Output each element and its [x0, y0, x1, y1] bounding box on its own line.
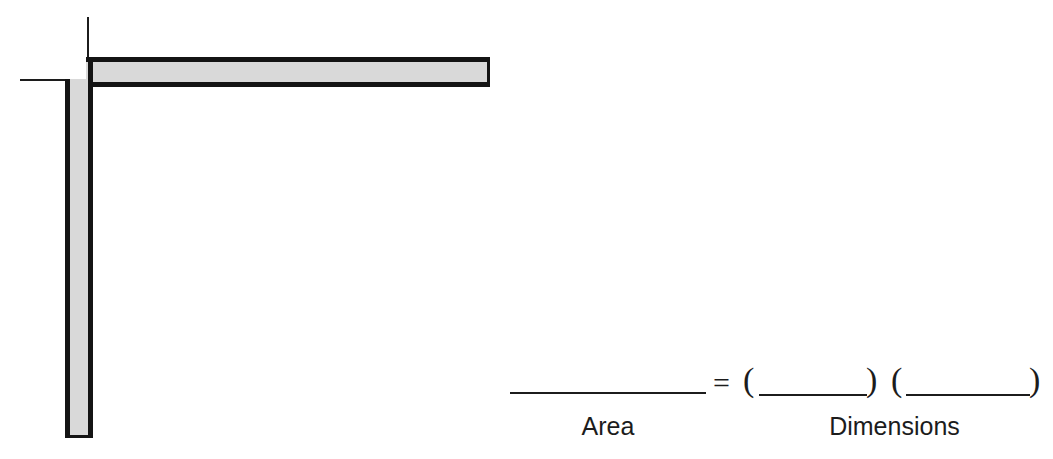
equals-sign: =	[713, 368, 730, 398]
area-answer-blank[interactable]	[510, 392, 706, 394]
left-parenthesis-2: (	[891, 363, 902, 397]
right-parenthesis-1: )	[866, 363, 877, 397]
l-shape-figure	[0, 0, 520, 459]
area-equation: = ( ) ( ) Area Dimensions	[500, 360, 1053, 459]
dimension-answer-blank-2[interactable]	[906, 394, 1030, 396]
left-parenthesis-1: (	[743, 363, 754, 397]
vertical-bar-end-cap	[65, 435, 93, 438]
equation-row: = ( ) ( )	[500, 360, 1053, 406]
area-label: Area	[510, 412, 706, 441]
horizontal-bar	[86, 57, 490, 87]
vertical-bar	[65, 79, 93, 438]
worksheet-page: = ( ) ( ) Area Dimensions	[0, 0, 1053, 459]
right-parenthesis-2: )	[1029, 363, 1040, 397]
horizontal-bar-end-cap	[487, 57, 490, 87]
dimensions-label: Dimensions	[759, 412, 1030, 441]
dimension-answer-blank-1[interactable]	[759, 394, 867, 396]
corner-joint	[88, 57, 93, 87]
